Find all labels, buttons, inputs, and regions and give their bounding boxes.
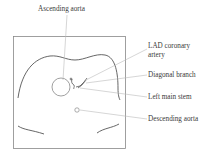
chest-outline	[18, 55, 120, 100]
label-lad-coronary-artery: LAD coronary artery	[148, 42, 190, 59]
label-lad-line2: artery	[148, 51, 190, 60]
coronary-vessels	[70, 78, 87, 89]
label-descending-aorta: Descending aorta	[148, 115, 198, 124]
descending-aorta-circle	[75, 108, 79, 112]
leader-lines	[63, 15, 147, 119]
label-lad-line1: LAD coronary	[148, 42, 190, 51]
ascending-aorta-circle	[52, 78, 70, 96]
label-ascending-aorta: Ascending aorta	[38, 5, 85, 14]
frame-box	[14, 37, 126, 149]
label-left-main-stem: Left main stem	[148, 93, 192, 102]
label-diagonal-branch: Diagonal branch	[148, 71, 196, 80]
right-lower-curve	[97, 124, 119, 133]
left-lower-curve	[18, 126, 44, 134]
